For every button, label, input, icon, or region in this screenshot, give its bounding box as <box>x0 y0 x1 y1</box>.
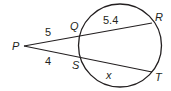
diagram-canvas: P Q R S T 5 5.4 4 x <box>0 0 171 91</box>
secant-diagram: P Q R S T 5 5.4 4 x <box>0 0 171 91</box>
segment-label-qr: 5.4 <box>103 14 118 26</box>
point-label-t: T <box>155 71 163 83</box>
point-label-q: Q <box>70 20 79 32</box>
secant-line-pst <box>24 46 152 72</box>
point-label-p: P <box>12 40 20 52</box>
segment-label-pq: 5 <box>45 26 51 38</box>
segment-label-ps: 4 <box>45 55 51 67</box>
segment-label-st: x <box>105 69 112 81</box>
secant-line-prq <box>24 23 152 46</box>
point-label-r: R <box>155 11 163 23</box>
point-label-s: S <box>72 59 80 71</box>
circle <box>79 4 162 87</box>
